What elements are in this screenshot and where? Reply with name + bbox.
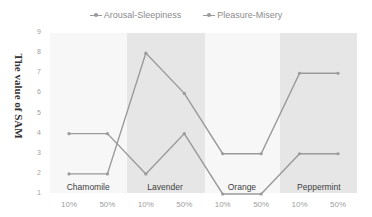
data-point-marker <box>183 132 186 135</box>
data-point-marker <box>183 92 186 95</box>
data-point-marker <box>144 172 147 175</box>
y-tick-label: 3 <box>34 149 44 156</box>
data-point-marker <box>106 132 109 135</box>
y-tick-label: 8 <box>34 48 44 55</box>
group-label-chamomile: Chamomile <box>53 182 123 192</box>
y-tick-label: 7 <box>34 68 44 75</box>
data-point-marker <box>260 152 263 155</box>
y-axis-label: The value of SAM <box>11 45 27 147</box>
data-point-marker <box>260 192 263 195</box>
x-tick-label: 50% <box>323 200 353 209</box>
data-point-marker <box>67 132 70 135</box>
data-point-marker <box>221 192 224 195</box>
y-tick-label: 1 <box>34 189 44 196</box>
group-label-peppermint: Peppermint <box>284 182 354 192</box>
data-point-marker <box>298 152 301 155</box>
line-marker-icon <box>203 15 215 16</box>
x-tick-label: 50% <box>92 200 122 209</box>
data-point-marker <box>298 72 301 75</box>
data-point-marker <box>336 72 339 75</box>
legend-label: Pleasure-Misery <box>217 10 282 20</box>
data-point-marker <box>106 172 109 175</box>
x-tick-label: 10% <box>208 200 238 209</box>
legend-item-arousal: Arousal-Sleepiness <box>90 10 182 20</box>
x-tick-label: 10% <box>54 200 84 209</box>
legend: Arousal-Sleepiness Pleasure-Misery <box>0 10 372 20</box>
y-tick-label: 5 <box>34 109 44 116</box>
sam-line-chart: Arousal-Sleepiness Pleasure-Misery The v… <box>0 0 372 217</box>
y-tick-label: 6 <box>34 88 44 95</box>
data-point-marker <box>336 152 339 155</box>
line-marker-icon <box>90 15 102 16</box>
group-label-lavender: Lavender <box>130 182 200 192</box>
group-band-chamomile <box>50 33 127 193</box>
x-tick-label: 50% <box>169 200 199 209</box>
group-band-lavender <box>127 33 205 193</box>
group-band-orange <box>205 33 280 193</box>
x-tick-label: 10% <box>131 200 161 209</box>
x-tick-label: 50% <box>246 200 276 209</box>
legend-item-pleasure: Pleasure-Misery <box>203 10 282 20</box>
x-tick-label: 10% <box>285 200 315 209</box>
data-point-marker <box>144 52 147 55</box>
data-point-marker <box>221 152 224 155</box>
legend-label: Arousal-Sleepiness <box>104 10 182 20</box>
y-tick-label: 4 <box>34 129 44 136</box>
y-tick-label: 9 <box>34 28 44 35</box>
group-label-orange: Orange <box>207 182 277 192</box>
group-band-peppermint <box>280 33 357 193</box>
y-tick-label: 2 <box>34 169 44 176</box>
data-point-marker <box>67 172 70 175</box>
